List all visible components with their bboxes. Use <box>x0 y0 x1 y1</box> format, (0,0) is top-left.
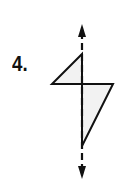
arrowhead-down-icon <box>78 166 86 179</box>
kite-figure <box>0 0 126 183</box>
arrowhead-up-icon <box>78 24 86 37</box>
